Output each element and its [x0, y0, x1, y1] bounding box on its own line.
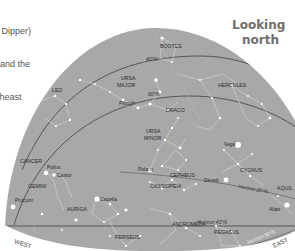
- label-plough: Plough: [119, 100, 135, 106]
- label-hercules: HERCULES: [218, 82, 247, 88]
- label-cepheus: CEPHEUS: [170, 172, 196, 178]
- label-leo: LEO: [52, 87, 62, 93]
- arc-label-40n: 40°N: [146, 56, 158, 62]
- label-pegasus: PEGASUS: [214, 229, 240, 235]
- label-bootes: BOOTES: [160, 43, 182, 49]
- label-gemini: GEMINI: [28, 183, 46, 189]
- label-aquila: AQUIL: [277, 185, 293, 191]
- label-ursa-major-2: MAJOR: [117, 82, 135, 88]
- arc-label-60n: 60°N: [148, 91, 160, 97]
- zenith-label: Zenith: [144, 12, 159, 18]
- label-ursa-major: URSA: [121, 75, 136, 81]
- label-pollux: Pollux: [47, 164, 61, 170]
- label-perseus: PERSEUS: [115, 234, 140, 240]
- star-chart: Zenith 20°N 40°N 60°N Horizon 20°N Horiz…: [0, 0, 295, 251]
- label-cassiopeia: CASSIOPEIA: [150, 183, 182, 189]
- label-polaris: Polaris: [138, 166, 154, 172]
- direction-west: WEST: [14, 238, 33, 249]
- label-draco: DRACO: [166, 107, 185, 113]
- label-cancer: CANCER: [20, 158, 42, 164]
- label-capella: Capella: [100, 196, 117, 202]
- label-cygnus: CYGNUS: [240, 167, 263, 173]
- label-ursa-minor-2: MINOR: [144, 135, 162, 141]
- label-ursa-minor: URSA: [146, 128, 161, 134]
- label-deneb: Deneb: [204, 177, 219, 183]
- label-andromeda: ANDROMEDA: [172, 221, 206, 227]
- label-auriga: AURIGA: [67, 206, 87, 212]
- label-vega: Vega: [224, 141, 236, 147]
- label-castor: Castor: [57, 172, 72, 178]
- zenith-sub: 20°N: [146, 19, 159, 25]
- label-procyon: Procyon: [15, 197, 34, 203]
- label-altair: Altair: [269, 206, 281, 212]
